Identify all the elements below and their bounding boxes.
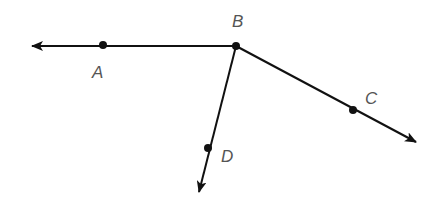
point-c-dot: [349, 106, 357, 114]
point-a-label: A: [91, 63, 103, 82]
diagram-canvas: A B C D: [0, 0, 438, 210]
point-b-dot: [232, 42, 240, 50]
point-d-label: D: [221, 147, 233, 166]
rays-diagram: A B C D: [0, 0, 438, 210]
point-b-label: B: [232, 12, 243, 31]
point-a-dot: [99, 41, 107, 49]
point-d-dot: [204, 144, 212, 152]
ray-bd: [199, 46, 236, 192]
point-c-label: C: [365, 89, 378, 108]
ray-bc: [236, 46, 416, 142]
